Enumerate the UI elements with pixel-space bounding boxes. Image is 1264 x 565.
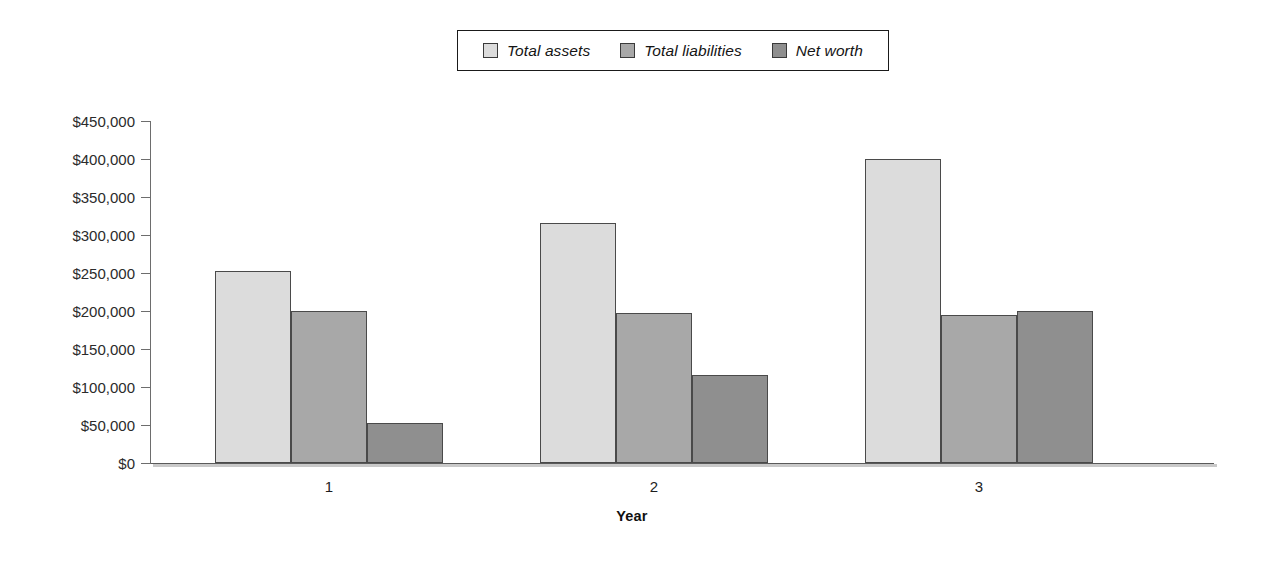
y-axis-tick — [141, 349, 151, 350]
x-axis-title: Year — [0, 508, 1264, 524]
x-axis-category-label: 3 — [975, 478, 983, 495]
bar — [865, 159, 941, 463]
y-axis-tick — [141, 425, 151, 426]
y-axis-tick — [141, 159, 151, 160]
y-axis-tick-label: $0 — [40, 455, 135, 472]
x-axis-category-label: 2 — [650, 478, 658, 495]
bar — [1017, 311, 1093, 463]
bar — [616, 313, 692, 463]
y-axis-tick — [141, 197, 151, 198]
y-axis-tick — [141, 463, 151, 464]
plot-area: $0$50,000$100,000$150,000$200,000$250,00… — [0, 0, 1264, 565]
y-axis-tick — [141, 387, 151, 388]
y-axis-tick-label: $400,000 — [40, 151, 135, 168]
bar-chart-figure: Total assets Total liabilities Net worth… — [0, 0, 1264, 565]
bar — [367, 423, 443, 463]
bar — [692, 375, 768, 463]
y-axis-tick — [141, 121, 151, 122]
x-axis-shadow — [153, 464, 1217, 467]
y-axis-tick — [141, 311, 151, 312]
y-axis-tick — [141, 273, 151, 274]
y-axis-tick-label: $100,000 — [40, 379, 135, 396]
bar — [941, 315, 1017, 463]
y-axis-line — [150, 121, 151, 464]
y-axis-tick-label: $450,000 — [40, 113, 135, 130]
y-axis-tick-label: $350,000 — [40, 189, 135, 206]
bar — [215, 271, 291, 463]
y-axis-tick — [141, 235, 151, 236]
y-axis-tick-label: $150,000 — [40, 341, 135, 358]
y-axis-tick-label: $200,000 — [40, 303, 135, 320]
bar — [291, 311, 367, 463]
bar — [540, 223, 616, 463]
x-axis-category-label: 1 — [325, 478, 333, 495]
y-axis-tick-label: $50,000 — [40, 417, 135, 434]
y-axis-tick-label: $250,000 — [40, 265, 135, 282]
x-axis-line — [150, 463, 1214, 464]
y-axis-tick-label: $300,000 — [40, 227, 135, 244]
